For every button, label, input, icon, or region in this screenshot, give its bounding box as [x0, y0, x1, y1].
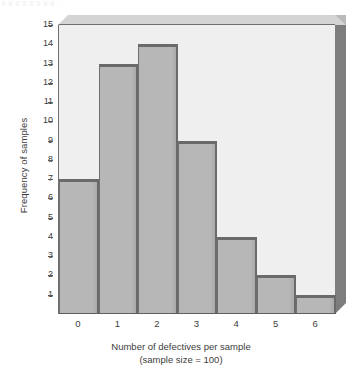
y-tick-mark [48, 237, 53, 238]
x-axis-line [59, 313, 336, 314]
y-tick-mark [48, 218, 53, 219]
y-tick-mark [48, 25, 53, 26]
bar-shade [329, 298, 334, 314]
y-tick-mark [48, 64, 53, 65]
plot-bevel-top-right [335, 15, 346, 25]
y-tick-mark [48, 83, 53, 84]
bar-shade [171, 47, 176, 314]
bar-1 [99, 64, 139, 314]
x-tick-label: 4 [216, 318, 256, 329]
bar-2 [138, 44, 178, 314]
bar-3 [178, 141, 218, 314]
x-axis-title-line2: (sample size = 100) [0, 353, 362, 366]
plot-box [58, 15, 346, 314]
y-tick-mark [48, 102, 53, 103]
y-tick-mark [48, 198, 53, 199]
bar-6 [296, 295, 336, 314]
bar-shade [92, 182, 97, 314]
plot-surface [58, 25, 335, 314]
x-tick-label: 6 [295, 318, 335, 329]
x-tick-label: 3 [177, 318, 217, 329]
y-tick-mark [48, 44, 53, 45]
plot-bevel-bottom-right [335, 303, 346, 314]
bar-4 [217, 237, 257, 314]
x-tick-label: 0 [58, 318, 98, 329]
y-tick-mark [48, 295, 53, 296]
histogram-figure: Frequency of samples 1514131211109876543… [0, 0, 362, 380]
y-tick-mark [48, 160, 53, 161]
bar-shade [250, 240, 255, 314]
y-tick-mark [48, 179, 53, 180]
y-tick-mark [48, 141, 53, 142]
y-tick-mark [48, 275, 53, 276]
bar-shade [210, 144, 215, 314]
y-tick-mark [48, 121, 53, 122]
x-tick-label: 1 [97, 318, 137, 329]
bar-0 [59, 179, 99, 314]
plot-bevel-top-left [58, 15, 68, 25]
x-axis-title-line1: Number of defectives per sample [111, 341, 250, 352]
x-tick-label: 5 [256, 318, 296, 329]
x-axis-title: Number of defectives per sample (sample … [0, 340, 362, 366]
x-tick-label: 2 [137, 318, 177, 329]
y-tick-mark [48, 256, 53, 257]
bar-shade [289, 278, 294, 314]
bar-5 [257, 275, 297, 314]
y-axis: 151413121110987654321 [20, 0, 53, 380]
plot-wall-right [335, 15, 346, 314]
bar-series [59, 25, 336, 314]
bar-shade [131, 67, 136, 314]
